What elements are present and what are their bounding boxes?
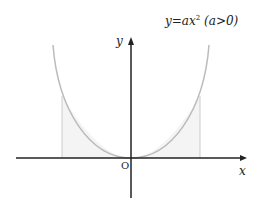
y-axis-label: y: [116, 34, 123, 48]
y-axis-arrow-icon: [128, 37, 134, 45]
parabola-diagram: [0, 0, 260, 210]
left-shaded-region: [62, 96, 131, 158]
x-axis-label: x: [239, 164, 246, 178]
origin-label: O: [121, 160, 129, 171]
right-shaded-region: [131, 96, 200, 158]
x-axis-arrow-icon: [240, 155, 247, 161]
